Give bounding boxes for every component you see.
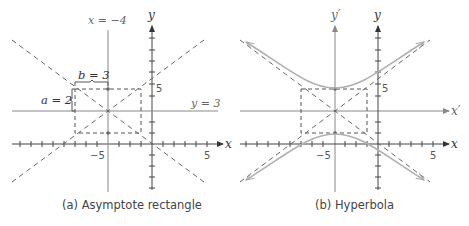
label-a-eq-2: a = 2	[41, 93, 72, 107]
tick-label-x5-b: 5	[430, 150, 436, 161]
label-y-axis: y	[147, 8, 155, 22]
panel-a-asymptote-rectangle: x = −4 y = 3 b = 3 a = 2 y x 5 −5 5 (a) …	[12, 8, 232, 212]
label-y-prime-axis: y′	[330, 8, 341, 22]
tick-label-x5: 5	[204, 150, 210, 161]
label-x-axis-b: x	[451, 137, 458, 151]
label-x-eq-m4: x = −4	[88, 14, 127, 27]
tick-label-xm5: −5	[90, 150, 105, 161]
label-x-prime-axis: x′	[451, 104, 461, 118]
label-x-axis: x	[225, 137, 232, 151]
label-y-axis-b: y	[373, 8, 381, 22]
caption-b: (b) Hyperbola	[315, 198, 394, 212]
tick-label-y5-b: 5	[382, 83, 388, 94]
caption-a: (a) Asymptote rectangle	[62, 198, 202, 212]
x-axis	[12, 141, 223, 147]
hyperbola-upper-branch-left-arrow	[246, 42, 335, 88]
panel-b-hyperbola: y′ x′ y x 5 −5 5 (b) Hyperbola	[240, 8, 461, 212]
y-axis-b	[375, 26, 381, 190]
y-axis	[149, 26, 155, 190]
label-y-eq-3: y = 3	[190, 97, 220, 110]
tick-label-xm5-b: −5	[316, 150, 331, 161]
tick-label-y5: 5	[156, 83, 162, 94]
x-axis-b	[240, 141, 449, 147]
vertex-bottom	[106, 131, 110, 135]
hyperbola-figure: x = −4 y = 3 b = 3 a = 2 y x 5 −5 5 (a) …	[0, 0, 469, 226]
label-b-eq-3: b = 3	[78, 68, 110, 82]
vertex-top	[106, 87, 110, 91]
